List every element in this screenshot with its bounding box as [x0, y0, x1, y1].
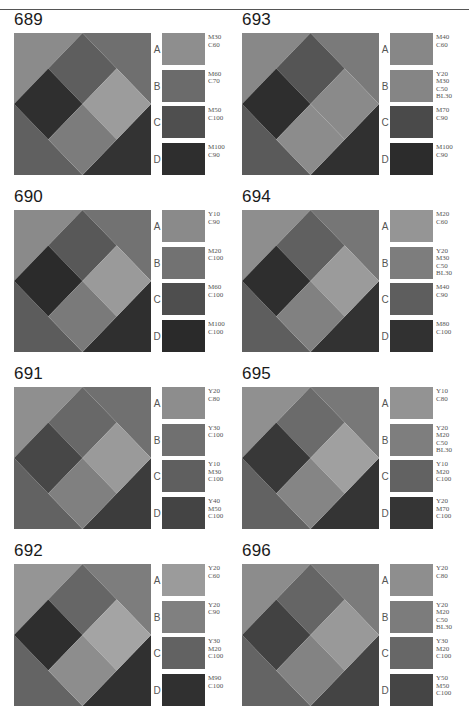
panel-number: 691 [14, 364, 43, 384]
swatch-cmyk-code: M100 C90 [208, 144, 225, 159]
swatch-letter-b: B [152, 258, 162, 269]
color-swatch-d [162, 143, 205, 175]
panel-number: 695 [242, 364, 271, 384]
color-swatch-b [390, 247, 433, 279]
swatch-cmyk-code: Y20 M20 C50 BL30 [436, 425, 452, 455]
color-panel-693: 693AM40 C60BY20 M30 C50 BL30CM70 C90DM10… [238, 10, 469, 186]
color-swatch-c [390, 637, 433, 669]
swatch-letter-b: B [152, 81, 162, 92]
panel-number: 689 [14, 10, 43, 30]
panel-number: 693 [242, 10, 271, 30]
color-swatch-a [162, 387, 205, 419]
color-swatch-b [162, 247, 205, 279]
swatch-letter-c: C [152, 294, 162, 305]
swatch-cmyk-code: M40 C90 [436, 284, 449, 299]
color-swatch-b [390, 601, 433, 633]
color-swatch-a [162, 564, 205, 596]
color-swatch-c [390, 460, 433, 492]
swatch-cmyk-code: Y20 M70 C100 [436, 498, 451, 521]
swatch-cmyk-code: M60 C100 [208, 284, 223, 299]
color-swatch-a [390, 564, 433, 596]
swatch-cmyk-code: Y20 M30 C50 BL30 [436, 71, 452, 101]
swatch-letter-d: D [380, 154, 390, 165]
swatch-letter-a: A [380, 44, 390, 55]
swatch-letter-d: D [380, 508, 390, 519]
color-swatch-b [162, 70, 205, 102]
swatch-cmyk-code: Y30 M20 C100 [436, 638, 451, 661]
color-swatch-d [390, 320, 433, 352]
swatch-cmyk-code: Y10 C90 [208, 211, 220, 226]
color-swatch-d [162, 320, 205, 352]
color-swatch-d [162, 497, 205, 529]
swatch-letter-d: D [152, 331, 162, 342]
swatch-cmyk-code: Y30 M20 C100 [208, 638, 223, 661]
diamond-pattern-image [14, 564, 151, 706]
color-panel-690: 690AY10 C90BM20 C100CM60 C100DM100 C100 [10, 187, 244, 363]
diamond-pattern-image [242, 210, 379, 352]
color-swatch-c [162, 283, 205, 315]
swatch-cmyk-code: M40 C60 [436, 34, 449, 49]
color-swatch-a [162, 210, 205, 242]
color-panel-694: 694AM20 C60BY20 M30 C50 BL30CM40 C90DM80… [238, 187, 469, 363]
color-panel-692: 692AY20 C60BY20 C90CY30 M20 C100DM90 C10… [10, 541, 244, 713]
color-swatch-c [162, 106, 205, 138]
color-swatch-d [390, 497, 433, 529]
swatch-cmyk-code: M20 C60 [436, 211, 449, 226]
swatch-cmyk-code: Y20 M20 C50 BL30 [436, 602, 452, 632]
swatch-letter-b: B [380, 612, 390, 623]
color-swatch-b [390, 424, 433, 456]
swatch-letter-c: C [380, 294, 390, 305]
color-swatch-a [390, 387, 433, 419]
color-swatch-c [162, 637, 205, 669]
swatch-cmyk-code: M100 C90 [436, 144, 453, 159]
color-swatch-c [390, 106, 433, 138]
swatch-letter-b: B [380, 258, 390, 269]
diamond-pattern-image [14, 210, 151, 352]
color-swatch-a [390, 33, 433, 65]
color-swatch-c [390, 283, 433, 315]
swatch-letter-a: A [380, 575, 390, 586]
swatch-letter-c: C [380, 648, 390, 659]
color-swatch-d [162, 674, 205, 706]
swatch-cmyk-code: M80 C100 [436, 321, 451, 336]
swatch-letter-b: B [152, 435, 162, 446]
swatch-letter-b: B [380, 81, 390, 92]
diamond-pattern-image [14, 387, 151, 529]
swatch-letter-d: D [152, 154, 162, 165]
panel-number: 690 [14, 187, 43, 207]
swatch-letter-d: D [152, 508, 162, 519]
swatch-cmyk-code: M20 C100 [208, 248, 223, 263]
panel-number: 696 [242, 541, 271, 561]
swatch-cmyk-code: Y10 M20 C100 [436, 461, 451, 484]
swatch-letter-a: A [152, 221, 162, 232]
color-swatch-a [390, 210, 433, 242]
swatch-cmyk-code: Y30 C100 [208, 425, 223, 440]
swatch-letter-b: B [380, 435, 390, 446]
swatch-cmyk-code: Y20 M30 C50 BL30 [436, 248, 452, 278]
swatch-cmyk-code: Y10 C80 [436, 388, 448, 403]
panel-number: 694 [242, 187, 271, 207]
swatch-cmyk-code: Y20 C80 [208, 388, 220, 403]
swatch-letter-a: A [380, 398, 390, 409]
color-panel-691: 691AY20 C80BY30 C100CY10 M30 C100DY40 M5… [10, 364, 244, 540]
swatch-letter-d: D [380, 331, 390, 342]
swatch-cmyk-code: M60 C70 [208, 71, 221, 86]
swatch-cmyk-code: Y20 C80 [436, 565, 448, 580]
swatch-cmyk-code: M90 C100 [208, 675, 223, 690]
swatch-cmyk-code: Y10 M30 C100 [208, 461, 223, 484]
swatch-cmyk-code: Y20 C90 [208, 602, 220, 617]
color-swatch-b [162, 601, 205, 633]
color-panel-695: 695AY10 C80BY20 M20 C50 BL30CY10 M20 C10… [238, 364, 469, 540]
swatch-letter-a: A [380, 221, 390, 232]
swatch-letter-d: D [152, 685, 162, 696]
color-swatch-c [162, 460, 205, 492]
swatch-letter-c: C [152, 471, 162, 482]
swatch-cmyk-code: M50 C100 [208, 107, 223, 122]
swatch-letter-c: C [152, 117, 162, 128]
color-swatch-d [390, 143, 433, 175]
swatch-letter-c: C [380, 117, 390, 128]
swatch-cmyk-code: M30 C60 [208, 34, 221, 49]
color-swatch-d [390, 674, 433, 706]
swatch-cmyk-code: Y40 M50 C100 [208, 498, 223, 521]
swatch-cmyk-code: Y20 C60 [208, 565, 220, 580]
